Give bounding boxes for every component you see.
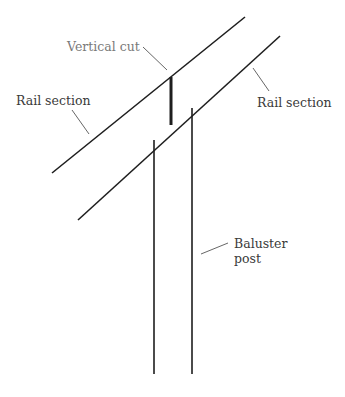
rail-right-leader <box>253 68 269 91</box>
rail-right-label: Rail section <box>257 95 332 110</box>
rail-left-label: Rail section <box>16 93 91 108</box>
rail-left-leader <box>72 110 89 134</box>
baluster-label-line1: Baluster <box>234 236 288 251</box>
baluster-rail-diagram: Vertical cut Rail section Rail section B… <box>0 0 345 397</box>
vertical-cut-label: Vertical cut <box>66 39 140 54</box>
baluster-leader <box>201 243 228 254</box>
baluster-label-line2: post <box>234 251 261 266</box>
vertical-cut-leader <box>143 47 167 70</box>
